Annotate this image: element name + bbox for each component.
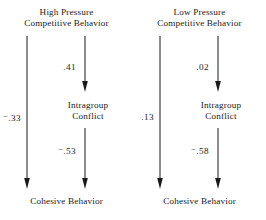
node-mediator-line1: Intragroup [68,100,108,110]
arrow-predictor-to-mediator [212,36,224,93]
panel-high-pressure: High Pressure Competitive Behavior Intra… [0,0,133,220]
node-outcome: Cohesive Behavior [133,196,266,207]
node-mediator: Intragroup Conflict [52,100,124,123]
node-mediator-line1: Intragroup [201,100,241,110]
node-predictor-line1: Low Pressure [173,7,225,17]
panel-low-pressure: Low Pressure Competitive Behavior Intrag… [133,0,266,220]
arrow-predictor-to-mediator [79,36,91,93]
node-mediator: Intragroup Conflict [185,100,257,123]
node-predictor-line2: Competitive Behavior [0,18,133,29]
arrow-mediator-to-outcome [212,128,224,190]
node-predictor: Low Pressure Competitive Behavior [133,7,266,30]
node-predictor: High Pressure Competitive Behavior [0,7,133,30]
node-outcome: Cohesive Behavior [0,196,133,207]
coefficient-predictor-to-mediator: .41 [36,62,79,72]
arrow-mediator-to-outcome [79,128,91,190]
node-mediator-line2: Conflict [185,111,257,122]
coefficient-mediator-to-outcome: .58 [163,145,212,156]
node-outcome-label: Cohesive Behavior [30,196,103,206]
coefficient-mediator-to-outcome: .53 [30,145,79,156]
node-outcome-label: Cohesive Behavior [163,196,236,206]
node-predictor-line2: Competitive Behavior [133,18,266,29]
coefficient-direct-effect: .33 [0,112,24,123]
coefficient-direct-effect: .13 [133,112,157,122]
coefficient-predictor-to-mediator: .02 [169,62,212,72]
node-predictor-line1: High Pressure [40,7,94,17]
node-mediator-line2: Conflict [52,111,124,122]
path-diagram-figure: High Pressure Competitive Behavior Intra… [0,0,266,220]
